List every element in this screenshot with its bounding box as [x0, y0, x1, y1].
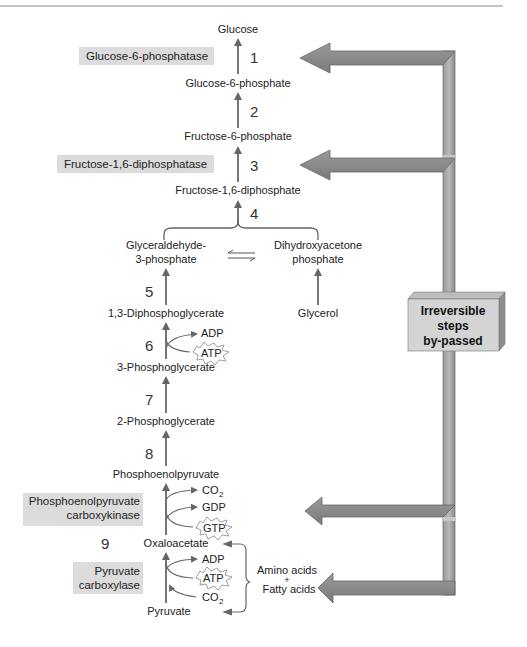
equilibrium-arrows [228, 250, 255, 261]
callout-line3: by-passed [423, 334, 482, 348]
co2-subscript: 2 [219, 490, 224, 499]
step-7: 7 [145, 391, 153, 408]
cofactor-adp-step9: ADP [202, 553, 225, 565]
cofactor-co2-pc: CO [202, 591, 219, 603]
gluconeogenesis-diagram: Irreversible steps by-passed Glucose-6-p… [0, 0, 527, 647]
step-1: 1 [250, 49, 258, 66]
bypass-arrow-pc [318, 573, 455, 603]
metabolite-phosphoenolpyruvate: Phosphoenolpyruvate [113, 468, 219, 480]
cofactor-atp-step9: ATP [203, 572, 224, 584]
metabolite-glyceraldehyde-3-phosphate-line2: 3-phosphate [135, 253, 196, 265]
metabolite-1-3-diphosphoglycerate: 1,3-Diphosphoglycerate [108, 307, 224, 319]
metabolite-glucose: Glucose [218, 23, 258, 35]
step-6: 6 [145, 337, 153, 354]
callout-line2: steps [437, 319, 469, 333]
pc-cofactor-arrows [166, 559, 196, 597]
step-2: 2 [250, 103, 258, 120]
co2-subscript-bottom: 2 [219, 597, 224, 606]
metabolite-3-phosphoglycerate: 3-Phosphoglycerate [117, 361, 215, 373]
enzyme-pepck-line1: Phosphoenolpyruvate [29, 495, 140, 507]
cofactor-adp-step6: ADP [201, 327, 224, 339]
bypass-arrow-step1 [300, 43, 455, 73]
step-9: 9 [101, 535, 109, 552]
pathway-arrows [166, 42, 318, 603]
metabolite-dihydroxyacetone-phosphate-line1: Dihydroxyacetone [274, 239, 362, 251]
metabolite-fatty-acids: Fatty acids [262, 583, 316, 595]
step-8: 8 [145, 445, 153, 462]
metabolite-2-phosphoglycerate: 2-Phosphoglycerate [117, 415, 215, 427]
pepck-cofactor-arrows [166, 490, 196, 527]
step-4: 4 [250, 205, 258, 222]
metabolite-fructose-6-phosphate: Fructose-6-phosphate [184, 130, 292, 142]
enzyme-fructose-1-6-diphosphatase: Fructose-1,6-diphosphatase [64, 158, 207, 170]
enzyme-glucose-6-phosphatase: Glucose-6-phosphatase [86, 50, 208, 62]
cofactor-co2-pepck: CO [202, 484, 219, 496]
metabolite-glucose-6-phosphate: Glucose-6-phosphate [185, 77, 290, 89]
metabolite-glycerol: Glycerol [298, 307, 338, 319]
metabolite-fructose-1-6-diphosphate: Fructose-1,6-diphosphate [175, 184, 300, 196]
cofactor-gtp: GTP [203, 522, 226, 534]
bypass-arrow-pepck [305, 497, 455, 525]
metabolite-oxaloacetate: Oxaloacetate [144, 537, 209, 549]
enzyme-pepck-line2: carboxykinase [66, 509, 140, 521]
bypass-arrow-step3 [300, 150, 455, 180]
callout-line1: Irreversible [421, 304, 486, 318]
metabolite-glyceraldehyde-3-phosphate-line1: Glyceraldehyde- [126, 239, 206, 251]
irreversible-steps-box: Irreversible steps by-passed [408, 292, 505, 351]
cofactor-gdp: GDP [202, 501, 226, 513]
step-5: 5 [145, 283, 153, 300]
step4-bracket [164, 222, 318, 240]
enzyme-pc-line2: carboxylase [79, 579, 140, 591]
metabolite-pyruvate: Pyruvate [147, 605, 190, 617]
cofactor-atp-step6: ATP [201, 347, 222, 359]
enzyme-pc-line1: Pyruvate [95, 565, 140, 577]
step6-cofactor-arrows [166, 334, 196, 352]
step-3: 3 [250, 157, 258, 174]
metabolite-dihydroxyacetone-phosphate-line2: phosphate [292, 253, 343, 265]
